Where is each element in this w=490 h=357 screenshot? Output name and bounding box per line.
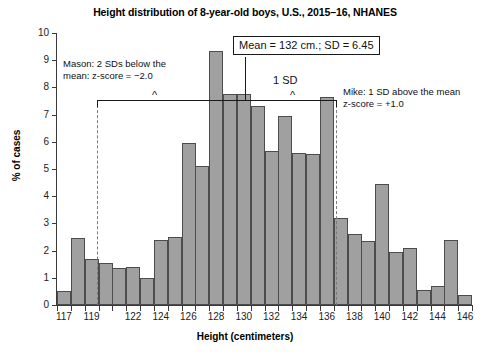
sd-caret-right: ^ bbox=[290, 92, 295, 99]
histogram-bar bbox=[444, 240, 458, 305]
histogram-bar bbox=[431, 286, 445, 305]
y-tick-mark bbox=[52, 115, 56, 116]
chart-figure: Height distribution of 8-year-old boys, … bbox=[0, 0, 490, 357]
y-tick-label: 3 bbox=[27, 217, 49, 228]
x-tick-label: 124 bbox=[147, 311, 175, 322]
mean-sd-callout: Mean = 132 cm.; SD = 6.45 bbox=[233, 36, 380, 55]
histogram-bar bbox=[389, 252, 403, 305]
y-tick-label: 0 bbox=[27, 299, 49, 310]
histogram-bar bbox=[223, 94, 237, 305]
histogram-bar bbox=[458, 295, 472, 305]
x-tick-label: 117 bbox=[50, 311, 78, 322]
sd-bracket-line bbox=[97, 100, 337, 101]
histogram-bar bbox=[168, 237, 182, 305]
sd-bracket-right-end bbox=[336, 100, 337, 107]
one-sd-label: 1 SD bbox=[273, 74, 297, 86]
mason-annotation-line-2: mean: z-score = −2.0 bbox=[63, 70, 153, 81]
y-tick-mark bbox=[52, 169, 56, 170]
x-tick-label: 136 bbox=[313, 311, 341, 322]
histogram-bar bbox=[348, 234, 362, 305]
histogram-bar bbox=[306, 154, 320, 305]
mason-dashed-line bbox=[97, 100, 98, 305]
histogram-bar bbox=[292, 153, 306, 305]
y-tick-mark bbox=[52, 223, 56, 224]
y-tick-label: 1 bbox=[27, 272, 49, 283]
y-tick-label: 5 bbox=[27, 163, 49, 174]
y-tick-mark bbox=[52, 305, 56, 306]
y-tick-label: 7 bbox=[27, 109, 49, 120]
y-tick-label: 4 bbox=[27, 190, 49, 201]
y-tick-label: 2 bbox=[27, 245, 49, 256]
y-tick-label: 6 bbox=[27, 136, 49, 147]
y-tick-mark bbox=[52, 278, 56, 279]
histogram-bar bbox=[265, 151, 279, 305]
x-tick-label: 122 bbox=[119, 311, 147, 322]
histogram-bar bbox=[154, 240, 168, 305]
histogram-bar bbox=[112, 268, 126, 305]
mike-annotation: Mike: 1 SD above the mean z-score = +1.0 bbox=[343, 86, 460, 110]
sd-bracket-left-end bbox=[97, 100, 98, 107]
histogram-bar bbox=[237, 94, 251, 305]
x-tick-label: 132 bbox=[257, 311, 285, 322]
x-tick-label: 119 bbox=[78, 311, 106, 322]
x-tick-label: 126 bbox=[174, 311, 202, 322]
histogram-bar bbox=[361, 241, 375, 305]
y-tick-mark bbox=[52, 87, 56, 88]
x-tick-label: 134 bbox=[285, 311, 313, 322]
x-tick-label: 128 bbox=[202, 311, 230, 322]
histogram-bar bbox=[71, 238, 85, 305]
y-tick-mark bbox=[52, 142, 56, 143]
y-tick-mark bbox=[52, 196, 56, 197]
y-tick-mark bbox=[52, 60, 56, 61]
x-tick-label: 146 bbox=[451, 311, 479, 322]
mason-annotation-line-1: Mason: 2 SDs below the bbox=[63, 58, 166, 69]
histogram-bar bbox=[417, 290, 431, 305]
histogram-bar bbox=[195, 166, 209, 305]
x-tick-label: 140 bbox=[368, 311, 396, 322]
mike-annotation-line-1: Mike: 1 SD above the mean bbox=[343, 86, 460, 97]
y-axis-title: % of cases bbox=[11, 111, 22, 201]
mike-dashed-line bbox=[336, 100, 337, 305]
y-tick-label: 9 bbox=[27, 54, 49, 65]
y-tick-mark bbox=[52, 251, 56, 252]
x-tick-label: 142 bbox=[396, 311, 424, 322]
y-tick-mark bbox=[52, 33, 56, 34]
x-tick-label: 130 bbox=[230, 311, 258, 322]
mason-annotation: Mason: 2 SDs below the mean: z-score = −… bbox=[63, 58, 166, 82]
histogram-bar bbox=[99, 263, 113, 305]
mean-drop-line bbox=[245, 57, 246, 101]
y-tick-label: 10 bbox=[27, 27, 49, 38]
histogram-bar bbox=[182, 143, 196, 305]
x-tick-mark bbox=[112, 306, 113, 311]
mike-annotation-line-2: z-score = +1.0 bbox=[343, 98, 404, 109]
sd-caret-left: ^ bbox=[152, 92, 157, 99]
x-tick-label: 138 bbox=[340, 311, 368, 322]
histogram-bar bbox=[403, 248, 417, 305]
histogram-bar bbox=[140, 278, 154, 305]
x-axis-title: Height (centimeters) bbox=[0, 331, 490, 342]
histogram-bar bbox=[320, 97, 334, 305]
histogram-bar bbox=[278, 116, 292, 305]
y-tick-label: 8 bbox=[27, 81, 49, 92]
y-axis-line bbox=[56, 33, 57, 306]
histogram-bar bbox=[375, 184, 389, 305]
histogram-bar bbox=[126, 267, 140, 305]
histogram-bar bbox=[209, 51, 223, 305]
histogram-bar bbox=[251, 106, 265, 305]
histogram-bar bbox=[57, 291, 71, 305]
chart-title: Height distribution of 8-year-old boys, … bbox=[0, 6, 490, 18]
x-tick-label: 144 bbox=[423, 311, 451, 322]
